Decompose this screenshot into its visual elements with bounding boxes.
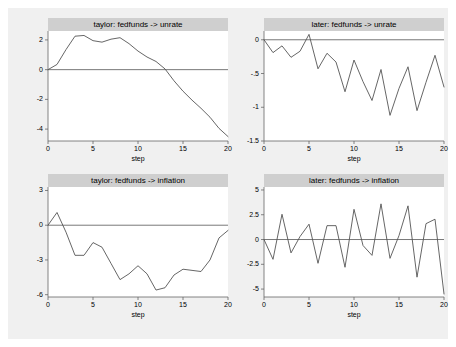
y-tick-label: 0 [236, 236, 259, 243]
x-axis-title: step [264, 155, 444, 162]
panel-top-right: later: fedfunds -> unrate 0-.5-1-1.50510… [236, 18, 444, 170]
x-tick-label: 0 [38, 301, 58, 308]
x-tick-label: 0 [254, 301, 274, 308]
y-tick-label: 2 [20, 36, 43, 43]
series-line [264, 204, 444, 294]
y-tick-label: -2.5 [236, 260, 259, 267]
x-axis-title: step [48, 155, 228, 162]
panel-top-left: taylor: fedfunds -> unrate 20-2-40510152… [20, 18, 228, 170]
x-tick-label: 20 [434, 301, 454, 308]
x-tick-label: 20 [434, 145, 454, 152]
x-axis-title: step [48, 311, 228, 318]
x-tick-label: 20 [218, 301, 238, 308]
x-tick-label: 20 [218, 145, 238, 152]
x-tick-label: 10 [344, 145, 364, 152]
y-tick-label: -1 [236, 103, 259, 110]
x-tick-label: 15 [389, 145, 409, 152]
x-tick-label: 10 [128, 301, 148, 308]
y-tick-label: 0 [20, 66, 43, 73]
x-tick-label: 5 [299, 145, 319, 152]
series-line [48, 35, 228, 136]
x-tick-label: 15 [389, 301, 409, 308]
y-tick-label: -3 [20, 256, 43, 263]
panel-bottom-right: later: fedfunds -> inflation 52.50-2.5-5… [236, 174, 444, 326]
y-tick-label: -1.5 [236, 137, 259, 144]
panel-bottom-left: taylor: fedfunds -> inflation 30-3-60510… [20, 174, 228, 326]
y-tick-label: 2.5 [236, 211, 259, 218]
x-tick-label: 0 [254, 145, 274, 152]
y-tick-label: 0 [20, 221, 43, 228]
y-tick-label: 5 [236, 186, 259, 193]
x-tick-label: 10 [128, 145, 148, 152]
y-tick-label: -.5 [236, 70, 259, 77]
y-tick-label: -5 [236, 285, 259, 292]
x-tick-label: 15 [173, 145, 193, 152]
x-tick-label: 15 [173, 301, 193, 308]
x-tick-label: 5 [83, 301, 103, 308]
x-tick-label: 5 [83, 145, 103, 152]
x-tick-label: 10 [344, 301, 364, 308]
y-tick-label: 3 [20, 186, 43, 193]
x-tick-label: 0 [38, 145, 58, 152]
y-tick-label: -4 [20, 125, 43, 132]
series-line [264, 34, 444, 115]
series-line [48, 212, 228, 290]
x-tick-label: 5 [299, 301, 319, 308]
y-tick-label: -6 [20, 291, 43, 298]
y-tick-label: -2 [20, 95, 43, 102]
y-tick-label: 0 [236, 36, 259, 43]
x-axis-title: step [264, 311, 444, 318]
figure-canvas: taylor: fedfunds -> unrate 20-2-40510152… [8, 8, 448, 339]
